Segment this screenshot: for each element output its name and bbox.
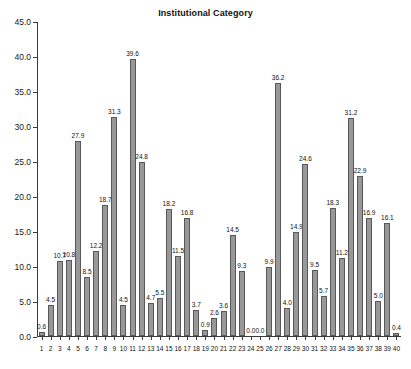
bar-value-label: 39.6 (126, 50, 139, 57)
x-axis-label: 13 (147, 345, 154, 352)
plot-area: 0.05.010.015.020.025.030.035.040.045.0 0… (37, 22, 401, 337)
x-axis-tick (78, 337, 79, 340)
bar (366, 218, 372, 336)
x-axis-tick (315, 337, 316, 340)
x-axis-tick (196, 337, 197, 340)
y-axis-label: 5.0 (19, 297, 31, 307)
bar (57, 261, 63, 336)
x-axis-label: 20 (211, 345, 218, 352)
y-axis-tick (33, 267, 37, 268)
bar-value-label: 14.9 (290, 223, 303, 230)
bar (293, 232, 299, 336)
bar (120, 305, 126, 337)
bar (302, 164, 308, 336)
bar-value-label: 9.5 (310, 261, 319, 268)
x-axis-tick (133, 337, 134, 340)
x-axis-label: 5 (76, 345, 80, 352)
bar (157, 298, 163, 337)
bar-value-label: 4.0 (283, 299, 292, 306)
bar (84, 277, 90, 337)
bar (339, 258, 345, 336)
bar-value-label: 31.3 (108, 108, 121, 115)
x-axis-tick (160, 337, 161, 340)
x-axis-tick (205, 337, 206, 340)
x-axis-tick (396, 337, 397, 340)
x-axis-label: 30 (302, 345, 309, 352)
x-axis-label: 39 (384, 345, 391, 352)
x-axis-tick (251, 337, 252, 340)
bar-value-label: 24.8 (135, 153, 148, 160)
bar (193, 310, 199, 336)
bar (393, 333, 399, 336)
y-axis-tick (33, 232, 37, 233)
y-axis-label: 10.0 (14, 262, 31, 272)
x-axis-tick (60, 337, 61, 340)
y-axis-tick (33, 337, 37, 338)
bar (375, 301, 381, 336)
x-axis-label: 38 (375, 345, 382, 352)
bar (148, 303, 154, 336)
bar-value-label: 18.7 (99, 196, 112, 203)
x-axis-label: 36 (356, 345, 363, 352)
x-axis-label: 18 (193, 345, 200, 352)
x-axis-tick (333, 337, 334, 340)
x-axis-label: 29 (293, 345, 300, 352)
y-axis-label: 20.0 (14, 192, 31, 202)
x-axis-label: 34 (338, 345, 345, 352)
x-axis-label: 37 (366, 345, 373, 352)
bar-value-label: 36.2 (272, 74, 285, 81)
x-axis-label: 2 (49, 345, 53, 352)
x-axis-tick (351, 337, 352, 340)
x-axis-label: 9 (113, 345, 117, 352)
bar-value-label: 9.3 (237, 262, 246, 269)
y-axis-tick (33, 22, 37, 23)
x-axis-tick (42, 337, 43, 340)
x-axis-label: 31 (311, 345, 318, 352)
bar (39, 332, 45, 336)
bar-value-label: 27.9 (72, 132, 85, 139)
bar-value-label: 31.2 (345, 109, 358, 116)
bar-value-label: 4.7 (146, 294, 155, 301)
bar (321, 296, 327, 336)
bar (184, 218, 190, 336)
x-axis-tick (96, 337, 97, 340)
x-axis-tick (105, 337, 106, 340)
bar-value-label: 16.9 (363, 209, 376, 216)
chart-title: Institutional Category (0, 8, 411, 18)
x-axis-tick (178, 337, 179, 340)
bar (384, 223, 390, 336)
x-axis-label: 12 (138, 345, 145, 352)
bar-value-label: 11.5 (172, 247, 184, 254)
x-axis-tick (51, 337, 52, 340)
bar (266, 267, 272, 336)
x-axis-tick (69, 337, 70, 340)
x-axis-label: 14 (156, 345, 163, 352)
bar (66, 260, 72, 336)
x-axis-label: 10 (120, 345, 127, 352)
x-axis-tick (278, 337, 279, 340)
x-axis-label: 3 (58, 345, 62, 352)
y-axis-label: 45.0 (14, 17, 31, 27)
bar (48, 305, 54, 337)
bar-value-label: 0.4 (392, 324, 401, 331)
x-axis-label: 19 (202, 345, 209, 352)
bar (348, 118, 354, 336)
bar-value-label: 16.1 (381, 214, 394, 221)
x-axis-tick (324, 337, 325, 340)
y-axis-tick (33, 127, 37, 128)
y-axis-label: 40.0 (14, 52, 31, 62)
bar (221, 311, 227, 336)
x-axis-tick (123, 337, 124, 340)
x-axis-label: 25 (256, 345, 263, 352)
y-axis-label: 15.0 (14, 227, 31, 237)
bar (357, 176, 363, 336)
x-axis-label: 16 (174, 345, 181, 352)
bar (139, 162, 145, 336)
bar-value-label: 4.5 (46, 296, 55, 303)
x-axis-tick (342, 337, 343, 340)
y-axis-line (37, 22, 38, 337)
bar (312, 270, 318, 337)
x-axis-label: 4 (67, 345, 71, 352)
x-axis-label: 23 (238, 345, 245, 352)
x-axis-tick (360, 337, 361, 340)
